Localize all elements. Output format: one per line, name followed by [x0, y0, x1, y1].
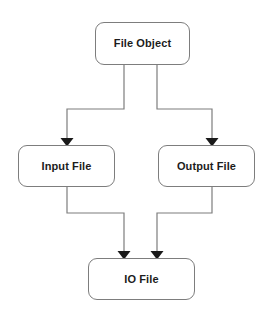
node-io-file[interactable]: IO File	[88, 258, 195, 300]
node-io-file-label: IO File	[124, 274, 158, 285]
node-input-file-label: Input File	[42, 161, 92, 172]
node-file-object[interactable]: File Object	[95, 22, 190, 65]
node-output-file[interactable]: Output File	[158, 145, 255, 187]
node-file-object-label: File Object	[114, 38, 171, 49]
edge-output-file-to-io-file	[157, 187, 212, 252]
edge-input-file-to-io-file	[67, 187, 124, 252]
node-output-file-label: Output File	[177, 161, 236, 172]
edge-file-object-to-input-file	[67, 65, 124, 139]
node-input-file[interactable]: Input File	[18, 145, 115, 187]
edge-file-object-to-output-file	[157, 65, 212, 139]
diagram-canvas: File Object Input File Output File IO Fi…	[0, 0, 269, 317]
